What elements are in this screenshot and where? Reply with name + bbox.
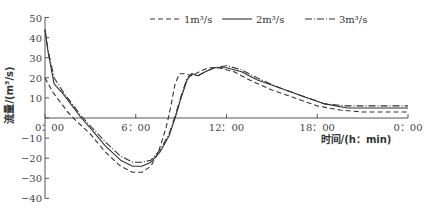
y-tick-label: −20 [21,153,42,164]
legend-label: 3m³/s [339,14,367,25]
legend-label: 2m³/s [256,14,284,25]
x-tick-label: 0：00 [393,122,422,133]
y-tick-label: 40 [29,33,42,44]
y-tick-label: −40 [21,193,42,204]
y-tick-label: −10 [21,133,42,144]
legend-label: 1m³/s [184,14,212,25]
y-tick-label: 50 [29,13,42,24]
x-tick-label: 0：00 [35,122,64,133]
y-axis-title: 流量/(m³/s) [3,66,15,123]
x-axis-title: 时间/(h：min) [321,133,392,145]
legend: 1m³/s2m³/s3m³/s [150,14,367,25]
y-tick-label: 30 [29,53,42,64]
x-tick-label: 6：00 [121,122,150,133]
flow-chart: 5040302010−10−20−30−40 0：006：0012：0018：0… [0,0,429,213]
x-tick-label: 18：00 [300,122,335,133]
series-line-dashed [45,68,408,173]
series-line-solid [45,30,408,167]
y-tick-label: −30 [21,173,42,184]
x-axis: 0：006：0012：0018：000：00 [35,114,423,133]
y-axis: 5040302010−10−20−30−40 [21,13,49,205]
x-tick-label: 12：00 [209,122,244,133]
y-tick-label: 10 [29,93,42,104]
y-tick-label: 20 [29,73,42,84]
series-group [45,30,408,173]
